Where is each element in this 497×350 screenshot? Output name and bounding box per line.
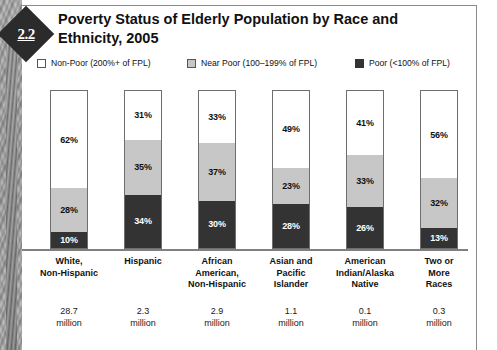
population-value: 28.7 (32, 306, 106, 318)
population-label: 2.9million (180, 306, 254, 329)
bar-segment-value-label: 33% (208, 112, 225, 122)
chart-legend: Non-Poor (200%+ of FPL) Near Poor (100–1… (37, 58, 467, 74)
bar-segment-value-label: 37% (208, 167, 225, 177)
bar-segment-non-poor: 56% (421, 91, 457, 178)
population-unit: million (32, 318, 106, 330)
legend-label-non-poor: Non-Poor (200%+ of FPL) (51, 58, 151, 68)
bar-segment-value-label: 30% (208, 219, 225, 229)
legend-item-poor: Poor (<100% of FPL) (355, 58, 450, 68)
bar-segment-value-label: 56% (430, 130, 447, 140)
legend-label-poor: Poor (<100% of FPL) (369, 58, 450, 68)
bar-segment-poor: 34% (125, 195, 161, 248)
stacked-bar: 33%37%30% (198, 90, 236, 249)
bar-segment-non-poor: 49% (273, 91, 309, 168)
bar-group: 33%37%30%AfricanAmerican,Non-Hispanic2.9… (180, 82, 254, 350)
population-value: 2.3 (106, 306, 180, 318)
population-label: 0.3million (402, 306, 476, 329)
bar-segment-value-label: 28% (282, 221, 299, 231)
category-label: Two orMoreRaces (402, 256, 476, 291)
legend-label-near-poor: Near Poor (100–199% of FPL) (201, 58, 317, 68)
population-unit: million (402, 318, 476, 330)
bar-segment-poor: 10% (51, 232, 87, 248)
population-unit: million (254, 318, 328, 330)
poor-swatch-icon (355, 59, 364, 68)
category-label: AmericanIndian/AlaskaNative (328, 256, 402, 291)
population-value: 2.9 (180, 306, 254, 318)
bar-segment-value-label: 41% (356, 118, 373, 128)
bar-segment-near-poor: 28% (51, 188, 87, 232)
near-poor-swatch-icon (187, 59, 196, 68)
bar-segment-poor: 28% (273, 204, 309, 248)
bar-segment-value-label: 32% (430, 198, 447, 208)
bar-segment-poor: 26% (347, 207, 383, 248)
population-label: 2.3million (106, 306, 180, 329)
legend-item-non-poor: Non-Poor (200%+ of FPL) (37, 58, 151, 68)
bar-segment-value-label: 10% (60, 235, 77, 245)
population-unit: million (180, 318, 254, 330)
population-value: 1.1 (254, 306, 328, 318)
population-label: 0.1million (328, 306, 402, 329)
bar-segment-value-label: 28% (60, 205, 77, 215)
category-label: AfricanAmerican,Non-Hispanic (180, 256, 254, 291)
bar-segment-value-label: 26% (356, 223, 373, 233)
category-label: Asian andPacificIslander (254, 256, 328, 291)
bar-segment-near-poor: 32% (421, 178, 457, 228)
bar-segment-poor: 30% (199, 201, 235, 248)
bar-segment-value-label: 31% (134, 110, 151, 120)
bar-segment-near-poor: 23% (273, 168, 309, 204)
decorative-spine-stem (6, 40, 17, 350)
bar-segment-value-label: 23% (282, 181, 299, 191)
stacked-bar: 62%28%10% (50, 90, 88, 249)
bar-group: 56%32%13%Two orMoreRaces0.3million (402, 82, 476, 350)
figure-number-badge: 2.2 (0, 6, 54, 62)
population-label: 1.1million (254, 306, 328, 329)
bar-segment-value-label: 13% (430, 233, 447, 243)
population-label: 28.7million (32, 306, 106, 329)
bar-segment-near-poor: 33% (347, 155, 383, 207)
bar-segment-value-label: 49% (282, 124, 299, 134)
stacked-bar: 56%32%13% (420, 90, 458, 249)
bar-group: 31%35%34%Hispanic2.3million (106, 82, 180, 350)
bar-segment-non-poor: 62% (51, 91, 87, 188)
bar-group: 49%23%28%Asian andPacificIslander1.1mill… (254, 82, 328, 350)
legend-item-near-poor: Near Poor (100–199% of FPL) (187, 58, 317, 68)
frame-top-rule (22, 5, 476, 6)
category-label: Hispanic (106, 256, 180, 268)
stacked-bar: 49%23%28% (272, 90, 310, 249)
bar-group: 41%33%26%AmericanIndian/AlaskaNative0.1m… (328, 82, 402, 350)
bar-segment-near-poor: 37% (199, 143, 235, 201)
bar-segment-non-poor: 31% (125, 91, 161, 140)
bar-segment-value-label: 34% (134, 216, 151, 226)
population-unit: million (106, 318, 180, 330)
category-label: White,Non-Hispanic (32, 256, 106, 279)
stacked-bar: 31%35%34% (124, 90, 162, 249)
stacked-bar: 41%33%26% (346, 90, 384, 249)
frame-right-rule (476, 5, 477, 350)
bar-segment-near-poor: 35% (125, 140, 161, 195)
page-title: Poverty Status of Elderly Population by … (58, 10, 458, 47)
population-value: 0.3 (402, 306, 476, 318)
bar-segment-non-poor: 33% (199, 91, 235, 143)
bar-segment-value-label: 33% (356, 176, 373, 186)
bar-segment-poor: 13% (421, 228, 457, 248)
stacked-bar-chart: 62%28%10%White,Non-Hispanic28.7million31… (22, 82, 472, 350)
bar-segment-non-poor: 41% (347, 91, 383, 155)
bar-group: 62%28%10%White,Non-Hispanic28.7million (32, 82, 106, 350)
bar-segment-value-label: 35% (134, 162, 151, 172)
population-unit: million (328, 318, 402, 330)
bar-segment-value-label: 62% (60, 135, 77, 145)
figure-number-label: 2.2 (0, 6, 54, 62)
population-value: 0.1 (328, 306, 402, 318)
